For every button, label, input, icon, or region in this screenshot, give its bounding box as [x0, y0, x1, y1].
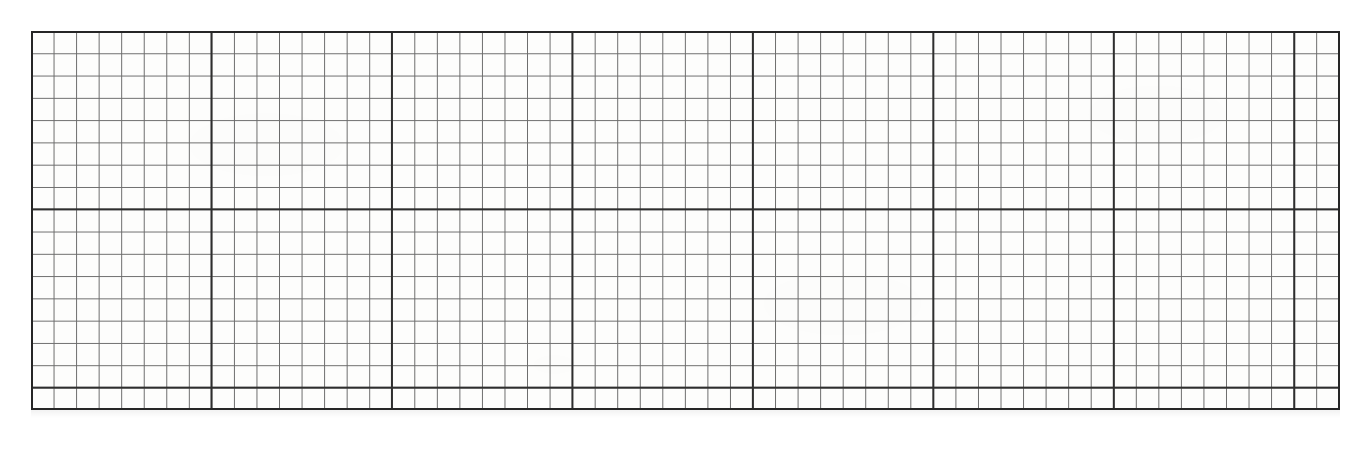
- graph-paper-grid: [31, 31, 1340, 410]
- major-vertical-grid-lines: [31, 31, 1340, 410]
- minor-grid-lines: [31, 31, 1340, 410]
- paper-texture: [31, 31, 1340, 410]
- grid-outer-border: [31, 31, 1340, 410]
- scanned-page: [0, 0, 1370, 452]
- scan-edge-shadow: [31, 410, 1340, 418]
- major-horizontal-grid-lines: [31, 31, 1340, 410]
